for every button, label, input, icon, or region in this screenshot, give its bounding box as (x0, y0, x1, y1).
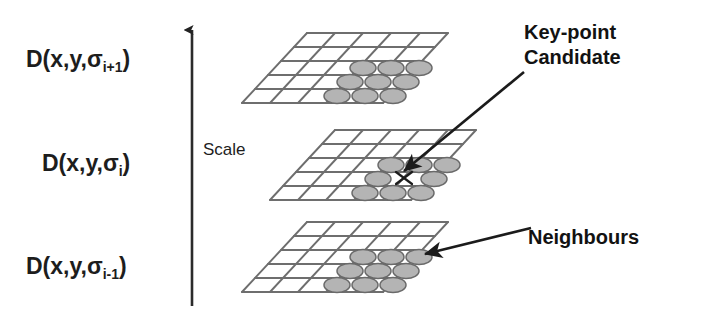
plane-label-middle-close: ) (123, 150, 131, 176)
keypoint-x-marker (396, 172, 412, 184)
plane-label-bottom: D(x,y,σi-1) (26, 253, 127, 280)
keypoint-annotation-label: Key-point Candidate (524, 20, 621, 70)
neighbours-annotation-arrow (425, 228, 531, 254)
plane-label-bottom-close: ) (119, 253, 127, 279)
scale-axis-label: Scale (203, 140, 246, 160)
keypoint-annotation-line2: Candidate (524, 45, 621, 70)
plane-bottom (242, 222, 448, 293)
plane-bottom-neighbour-circles (324, 250, 432, 293)
plane-label-top-base: D(x,y,σ (26, 46, 103, 72)
plane-label-bottom-base: D(x,y,σ (26, 253, 103, 279)
plane-label-middle-subscript: i (119, 163, 123, 179)
plane-label-top: D(x,y,σi+1) (26, 46, 130, 73)
keypoint-annotation-line1: Key-point (524, 20, 621, 45)
plane-label-bottom-subscript: i-1 (103, 266, 119, 282)
sift-scale-space-figure: D(x,y,σi+1) D(x,y,σi) D(x,y,σi-1) Scale … (0, 0, 705, 324)
neighbours-annotation-line1: Neighbours (528, 225, 639, 250)
neighbours-annotation-label: Neighbours (528, 225, 639, 250)
plane-label-top-subscript: i+1 (103, 59, 123, 75)
plane-label-top-close: ) (123, 46, 131, 72)
plane-label-middle: D(x,y,σi) (42, 150, 130, 177)
plane-top-neighbour-circles (324, 61, 432, 104)
keypoint-annotation-arrow (404, 72, 524, 171)
plane-middle (270, 130, 476, 201)
plane-top (242, 33, 448, 104)
plane-label-middle-base: D(x,y,σ (42, 150, 119, 176)
